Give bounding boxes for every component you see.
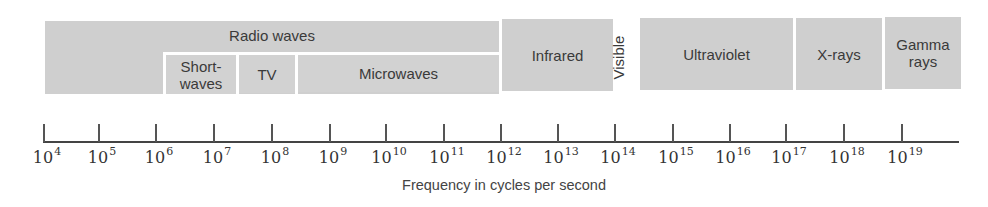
band-ultraviolet-label: Ultraviolet xyxy=(683,46,750,63)
axis-tick-label: 1011 xyxy=(429,148,464,167)
axis-tick xyxy=(271,124,273,142)
axis-tick-label: 1016 xyxy=(715,148,750,167)
axis-tick xyxy=(385,124,387,142)
band-infrared-label: Infrared xyxy=(532,47,584,64)
axis-tick xyxy=(98,124,100,142)
band-x-rays-label: X-rays xyxy=(817,46,860,63)
axis-tick xyxy=(785,124,787,142)
band-microwaves: Microwaves xyxy=(298,55,499,92)
axis-tick xyxy=(43,124,45,142)
band-shortwaves: Short- waves xyxy=(166,55,236,94)
axis-tick xyxy=(329,124,331,142)
band-gamma-rays-label-1: Gamma xyxy=(896,36,949,53)
band-radio-waves-label: Radio waves xyxy=(45,27,499,44)
band-tv: TV xyxy=(239,55,295,93)
axis-tick xyxy=(500,124,502,142)
axis-tick xyxy=(729,124,731,142)
band-shortwaves-label-2: waves xyxy=(180,75,223,92)
band-shortwaves-label-1: Short- xyxy=(181,58,222,75)
axis-tick-label: 109 xyxy=(319,148,347,167)
axis-tick-label: 1013 xyxy=(543,148,578,167)
axis-tick xyxy=(213,124,215,142)
band-gamma-rays-label-2: rays xyxy=(909,53,937,70)
axis-tick-label: 1019 xyxy=(887,148,922,167)
axis-tick-label: 1010 xyxy=(371,148,406,167)
band-visible: Visible xyxy=(606,22,632,92)
band-microwaves-label: Microwaves xyxy=(359,65,438,82)
axis-tick xyxy=(443,124,445,142)
axis-tick-label: 104 xyxy=(33,148,61,167)
axis-tick xyxy=(557,124,559,142)
axis-tick xyxy=(672,124,674,142)
band-visible-label: Visible xyxy=(611,35,628,79)
band-x-rays: X-rays xyxy=(796,18,882,90)
band-tv-label: TV xyxy=(257,66,276,83)
axis-caption: Frequency in cycles per second xyxy=(0,177,988,193)
axis-tick xyxy=(155,124,157,142)
axis-tick xyxy=(614,124,616,142)
band-ultraviolet: Ultraviolet xyxy=(640,18,793,90)
axis-tick-label: 1017 xyxy=(771,148,806,167)
band-infrared: Infrared xyxy=(502,19,613,91)
axis-tick-label: 105 xyxy=(88,148,116,167)
axis-tick-label: 1012 xyxy=(486,148,521,167)
axis-tick-label: 106 xyxy=(145,148,173,167)
axis-tick xyxy=(901,124,903,142)
axis-tick-label: 108 xyxy=(261,148,289,167)
band-gamma-rays: Gamma rays xyxy=(885,17,961,89)
axis-tick-label: 1014 xyxy=(600,148,635,167)
axis-tick-label: 1018 xyxy=(829,148,864,167)
axis-tick xyxy=(843,124,845,142)
axis-tick-label: 107 xyxy=(203,148,231,167)
axis-tick-label: 1015 xyxy=(658,148,693,167)
